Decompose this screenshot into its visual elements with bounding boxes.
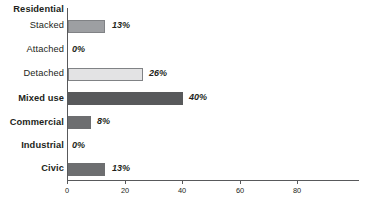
category-label-stacked: Stacked — [0, 20, 64, 30]
category-label-attached: Attached — [0, 44, 64, 54]
bar-civic — [68, 163, 105, 176]
category-label-mixed-use: Mixed use — [0, 93, 64, 103]
bar-mixed-use — [68, 92, 183, 105]
x-tick-80 — [297, 180, 298, 184]
x-tick-0 — [67, 180, 68, 184]
category-label-industrial: Industrial — [0, 140, 64, 150]
bar-commercial — [68, 116, 91, 129]
x-axis-line — [67, 180, 359, 181]
x-tick-label-20: 20 — [121, 186, 129, 195]
bar-chart: Residential Stacked Attached Detached Mi… — [0, 0, 366, 208]
x-tick-60 — [240, 180, 241, 184]
x-tick-label-40: 40 — [178, 186, 186, 195]
bar-detached — [68, 68, 143, 81]
bar-value-industrial: 0% — [72, 140, 85, 150]
plot-area: 0 20 40 60 80 13% 0% 26% 40% 8% 0% 13% — [67, 8, 359, 180]
bar-value-commercial: 8% — [97, 116, 110, 126]
bar-value-civic: 13% — [112, 163, 130, 173]
category-label-detached: Detached — [0, 68, 64, 78]
x-tick-label-80: 80 — [293, 186, 301, 195]
bar-value-stacked: 13% — [112, 20, 130, 30]
category-label-commercial: Commercial — [0, 117, 64, 127]
bar-value-mixed-use: 40% — [189, 92, 207, 102]
x-tick-40 — [182, 180, 183, 184]
x-tick-20 — [125, 180, 126, 184]
category-label-civic: Civic — [0, 163, 64, 173]
x-tick-label-0: 0 — [65, 186, 69, 195]
category-group-header: Residential — [0, 4, 64, 14]
bar-value-attached: 0% — [72, 44, 85, 54]
bar-value-detached: 26% — [149, 68, 167, 78]
x-tick-label-60: 60 — [236, 186, 244, 195]
bar-stacked — [68, 20, 105, 33]
